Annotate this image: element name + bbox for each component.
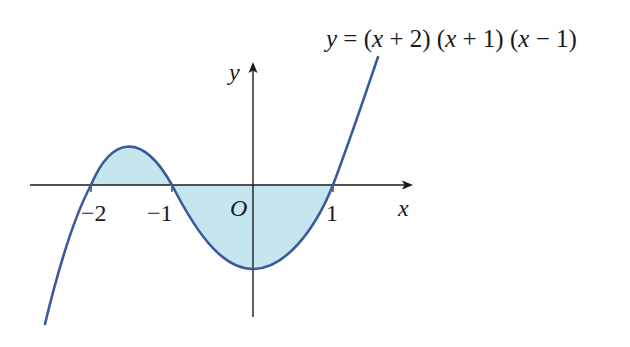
y-axis-label: y [227, 59, 240, 85]
origin-label: O [230, 195, 247, 221]
tick-label-neg2: −2 [81, 200, 107, 226]
tick-label-neg1: −1 [147, 200, 173, 226]
shaded-area [91, 147, 333, 269]
tick-label-1: 1 [326, 200, 338, 226]
x-axis-label: x [397, 195, 409, 221]
equation-title: y = (x + 2) (x + 1) (x − 1) [323, 25, 577, 53]
cubic-function-graph: y x O −2 −1 1 y = (x + 2) (x + 1) (x − 1… [0, 0, 630, 347]
